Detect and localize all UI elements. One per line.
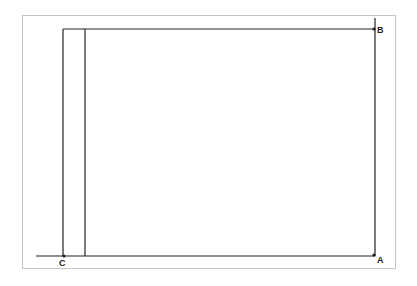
point-c-label: C [59,259,66,268]
point-a-marker [372,253,375,256]
point-b-label: B [377,26,384,35]
point-a-label: A [377,256,384,265]
point-b-marker [372,27,375,30]
diagram-lines [0,0,417,286]
diagram-canvas: A B C [0,0,417,286]
